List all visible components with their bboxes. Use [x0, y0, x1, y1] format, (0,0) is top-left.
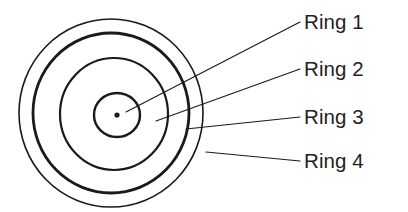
- ring-4-label: Ring 4: [304, 151, 364, 172]
- ring-3-label: Ring 3: [304, 107, 364, 128]
- ring-2-label: Ring 2: [304, 59, 364, 80]
- ring-4-circle[interactable]: [19, 19, 203, 207]
- ring-1-label: Ring 1: [304, 12, 364, 33]
- leader-line-ring-2: [156, 69, 300, 121]
- ring-diagram: Ring 1 Ring 2 Ring 3 Ring 4: [0, 0, 408, 212]
- leader-line-ring-4: [206, 152, 300, 161]
- ring-2-circle[interactable]: [60, 58, 168, 170]
- center-dot: [114, 112, 119, 117]
- leader-line-ring-1: [126, 22, 300, 112]
